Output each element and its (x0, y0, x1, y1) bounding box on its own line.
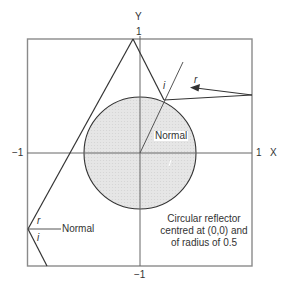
circle-normal-label: Normal (154, 131, 188, 141)
wall-normal-label: Normal (62, 224, 94, 234)
caption-line-3: of radius of 0.5 (158, 237, 250, 249)
ray-circle-to-right-edge (164, 95, 252, 100)
arrowhead-icon (190, 84, 200, 92)
caption-line-2: centred at (0,0) and (158, 225, 250, 237)
ray-apex-to-circle (133, 39, 164, 100)
wall-incidence-label: i (37, 233, 39, 243)
x-min-label: −1 (12, 148, 23, 158)
caption-line-1: Circular reflector (158, 213, 250, 225)
x-axis-label: X (270, 148, 277, 158)
circle-reflection-label: r (194, 75, 197, 85)
x-max-label: 1 (256, 148, 262, 158)
diagram-caption: Circular reflector centred at (0,0) and … (158, 213, 250, 249)
reflected-direction-arrow (196, 88, 252, 95)
y-min-label: −1 (134, 270, 145, 280)
y-axis-label: Y (135, 12, 142, 22)
wall-reflection-label: r (37, 216, 40, 226)
y-max-label: 1 (136, 27, 142, 37)
circle-incidence-label: i (163, 81, 165, 91)
